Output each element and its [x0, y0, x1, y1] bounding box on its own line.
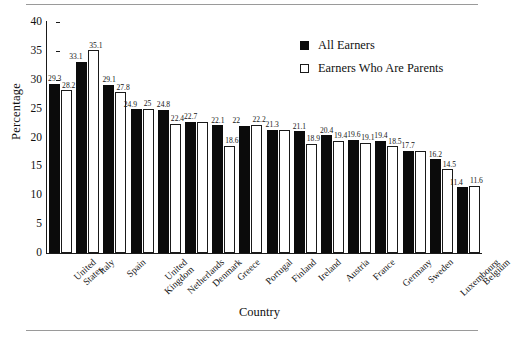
- bar-all-earners: [375, 141, 386, 253]
- bar-value-label: 29.3: [48, 75, 61, 83]
- bar-value-label: 21.1: [293, 123, 306, 131]
- bar-value-label: 20.4: [320, 127, 333, 135]
- bar-value-label: 19.6: [347, 131, 360, 139]
- bar-value-label: 11.6: [470, 177, 483, 185]
- bar-value-label: 17.7: [402, 142, 415, 150]
- bar-value-label: 28.2: [62, 82, 75, 90]
- y-tick-label: 25: [31, 103, 43, 115]
- bar-earners-who-are-parents: [360, 143, 371, 253]
- y-tick-label: 5: [36, 218, 42, 230]
- y-tick-label: 30: [31, 74, 43, 86]
- bar-value-label: 35.1: [89, 42, 102, 50]
- bar-all-earners: [103, 85, 114, 253]
- bar-earners-who-are-parents: [387, 146, 398, 253]
- bar-value-label: 25: [144, 100, 152, 108]
- bar-group: 24.925: [131, 22, 154, 253]
- legend-label: All Earners: [318, 36, 375, 55]
- bar-earners-who-are-parents: [333, 141, 344, 253]
- bar-value-label: 18.6: [225, 137, 238, 145]
- x-tick-label: Ireland: [317, 257, 344, 283]
- bar-value-label: 24.9: [124, 101, 137, 109]
- bar-group: 11.411.6: [457, 22, 480, 253]
- bar-value-label: 16.2: [429, 151, 442, 159]
- x-axis-title: Country: [0, 305, 495, 320]
- y-tick-label: 10: [31, 190, 43, 202]
- bar-all-earners: [76, 62, 87, 253]
- y-tick-label: 40: [31, 16, 43, 28]
- bar-all-earners: [212, 125, 223, 253]
- legend-item: All Earners: [300, 36, 443, 55]
- bar-value-label: 22.1: [211, 117, 224, 125]
- bottom-divider-rule: [26, 330, 478, 331]
- bar-group: 33.135.1: [76, 22, 99, 253]
- bar-group: 24.822.4: [158, 22, 181, 253]
- bar-earners-who-are-parents: [170, 124, 181, 253]
- bar-value-label: 21.3: [266, 121, 279, 129]
- y-axis-ticks: 0510152025303540: [14, 22, 42, 253]
- bar-all-earners: [239, 126, 250, 253]
- bar-all-earners: [131, 109, 142, 253]
- bar-all-earners: [267, 130, 278, 253]
- x-tick-label: United States: [72, 257, 105, 290]
- bar-earners-who-are-parents: [469, 186, 480, 253]
- bar-all-earners: [321, 135, 332, 253]
- bar-value-label: 22: [232, 117, 240, 125]
- bar-group: 22.118.6: [212, 22, 235, 253]
- bar-value-label: 29.1: [102, 76, 115, 84]
- bar-group: 21.3: [267, 22, 290, 253]
- x-tick-label: Austria: [344, 257, 372, 284]
- legend-swatch-hollow-icon: [300, 64, 309, 73]
- bar-earners-who-are-parents: [306, 144, 317, 253]
- bar-earners-who-are-parents: [251, 125, 262, 253]
- bar-group: 29.127.8: [103, 22, 126, 253]
- bar-earners-who-are-parents: [143, 109, 154, 253]
- bar-all-earners: [430, 159, 441, 253]
- bar-group: 2222.2: [239, 22, 262, 253]
- bar-value-label: 24.8: [157, 101, 170, 109]
- bar-all-earners: [49, 84, 60, 253]
- bar-value-label: 14.5: [443, 161, 456, 169]
- bar-all-earners: [185, 122, 196, 253]
- bar-earners-who-are-parents: [197, 122, 208, 253]
- bar-value-label: 19.4: [374, 132, 387, 140]
- bar-earners-who-are-parents: [115, 92, 126, 253]
- bar-value-label: 33.1: [69, 53, 82, 61]
- bar-all-earners: [403, 151, 414, 253]
- legend-swatch-filled-icon: [300, 41, 309, 50]
- bar-earners-who-are-parents: [61, 90, 72, 253]
- bar-earners-who-are-parents: [415, 151, 426, 253]
- legend-item: Earners Who Are Parents: [300, 59, 443, 78]
- bar-value-label: 18.5: [388, 138, 401, 146]
- bar-value-label: 19.4: [334, 132, 347, 140]
- top-divider-rule: [26, 4, 478, 5]
- bar-value-label: 27.8: [116, 84, 129, 92]
- x-axis-line: [46, 253, 482, 254]
- bar-value-label: 22.2: [252, 116, 265, 124]
- bar-value-label: 22.4: [171, 115, 184, 123]
- x-tick-label: Spain: [125, 257, 148, 279]
- bar-earners-who-are-parents: [88, 50, 99, 253]
- y-tick-label: 15: [31, 161, 43, 173]
- x-tick-label: Finland: [290, 257, 318, 284]
- y-tick-label: 35: [31, 45, 43, 57]
- bar-all-earners: [158, 110, 169, 253]
- bar-value-label: 11.4: [450, 179, 463, 187]
- bar-earners-who-are-parents: [224, 146, 235, 253]
- y-tick-label: 0: [36, 247, 42, 259]
- bar-all-earners: [348, 140, 359, 253]
- bar-group: 22.7: [185, 22, 208, 253]
- chart-legend: All EarnersEarners Who Are Parents: [300, 36, 443, 82]
- y-tick-mark: [56, 253, 60, 254]
- bar-all-earners: [457, 187, 468, 253]
- y-tick-label: 20: [31, 132, 43, 144]
- bar-value-label: 22.7: [184, 113, 197, 121]
- bar-earners-who-are-parents: [279, 130, 290, 253]
- bar-value-label: 18.9: [307, 135, 320, 143]
- bar-all-earners: [294, 131, 305, 253]
- x-tick-label: Portugal: [264, 257, 295, 287]
- bar-value-label: 19.1: [361, 134, 374, 142]
- legend-label: Earners Who Are Parents: [318, 59, 443, 78]
- x-tick-label: France: [371, 257, 397, 282]
